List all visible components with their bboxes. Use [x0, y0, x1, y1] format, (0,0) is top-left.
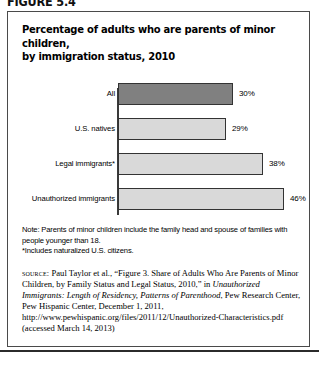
bar-category-label: U.S. natives: [0, 124, 115, 134]
figure-box: Percentage of adults who are parents of …: [7, 11, 310, 347]
bottom-divider: [0, 350, 319, 352]
bar-chart: All 30% U.S. natives 29% Legal immigrant…: [8, 80, 309, 220]
source-citation: source: Paul Taylor et al., “Figure 3. S…: [22, 268, 304, 335]
bar-row: Legal immigrants* 38%: [8, 150, 309, 181]
source-label: source:: [22, 269, 49, 278]
figure-number: FIGURE 5.4: [7, 0, 76, 8]
bar-legal-immigrants: [118, 153, 263, 175]
bar-value-label: 38%: [269, 159, 285, 169]
bar-row: U.S. natives 29%: [8, 115, 309, 146]
note-line-1: Note: Parents of minor children include …: [22, 225, 302, 236]
bar-unauthorized-immigrants: [118, 188, 284, 210]
chart-title-line-2: by immigration status, 2010: [22, 50, 175, 62]
chart-title-line-1: Percentage of adults who are parents of …: [22, 23, 275, 49]
chart-notes: Note: Parents of minor children include …: [22, 225, 302, 257]
bar-category-label: All: [0, 89, 115, 99]
bar-all: [118, 83, 233, 105]
bar-category-label: Legal immigrants*: [0, 159, 115, 169]
bar-value-label: 29%: [232, 124, 248, 134]
asterisk-footnote: *Includes naturalized U.S. citizens.: [22, 246, 302, 257]
bar-value-label: 46%: [290, 194, 306, 204]
note-line-2: people younger than 18.: [22, 236, 302, 247]
bar-value-label: 30%: [239, 89, 255, 99]
bar-row: Unauthorized immigrants 46%: [8, 185, 309, 216]
bar-row: All 30%: [8, 80, 309, 111]
chart-title: Percentage of adults who are parents of …: [22, 23, 279, 64]
bar-category-label: Unauthorized immigrants: [0, 194, 115, 204]
bar-us-natives: [118, 118, 226, 140]
